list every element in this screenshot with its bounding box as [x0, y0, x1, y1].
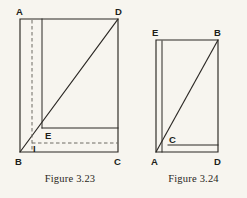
label-d: D	[214, 156, 221, 167]
diagonal-ab	[156, 40, 218, 152]
label-d: D	[115, 6, 122, 17]
figure-3-24: E B A D C Figure 3.24	[140, 0, 247, 198]
label-e: E	[45, 130, 51, 141]
label-e: E	[152, 27, 158, 38]
figure-3-23-drawing: A D B C E I	[0, 0, 140, 198]
figure-3-24-drawing: E B A D C	[140, 0, 247, 198]
label-a: A	[151, 156, 158, 167]
label-i: I	[33, 143, 36, 154]
label-c: C	[114, 156, 121, 167]
label-c: C	[169, 134, 176, 145]
figure-3-23: A D B C E I Figure 3.23	[0, 0, 140, 198]
label-a: A	[16, 6, 23, 17]
diagonal-bd	[20, 19, 118, 152]
figure-3-24-caption: Figure 3.24	[140, 173, 247, 184]
figure-3-23-caption: Figure 3.23	[0, 173, 140, 184]
label-b: B	[214, 27, 221, 38]
label-b: B	[15, 156, 22, 167]
figures-page: A D B C E I Figure 3.23 E B A D C Figure	[0, 0, 247, 198]
